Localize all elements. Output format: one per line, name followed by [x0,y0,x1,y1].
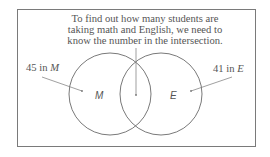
caption-text: To find out how many students are taking… [60,13,230,46]
caption-line-3: know the number in the intersection. [60,35,230,46]
label-m-count: 45 in M [26,62,59,73]
region-label-m: M [95,90,103,101]
circle-m [69,53,151,135]
region-label-e: E [170,90,177,101]
label-e-number: 41 [213,63,224,74]
leader-line-m [42,77,82,91]
leader-line-e [191,77,232,91]
leader-dot-m [81,90,83,92]
label-m-letter: M [50,62,59,73]
caption-line-1: To find out how many students are [60,13,230,24]
label-e-letter: E [237,63,243,74]
caption-line-2: taking math and English, we need to [60,24,230,35]
label-m-in: in [39,62,47,73]
label-m-number: 45 [26,62,37,73]
leader-dot-e [190,90,192,92]
circle-e [120,53,202,135]
label-e-in: in [226,63,234,74]
label-e-count: 41 in E [213,63,244,74]
intersection-dot [135,94,137,96]
